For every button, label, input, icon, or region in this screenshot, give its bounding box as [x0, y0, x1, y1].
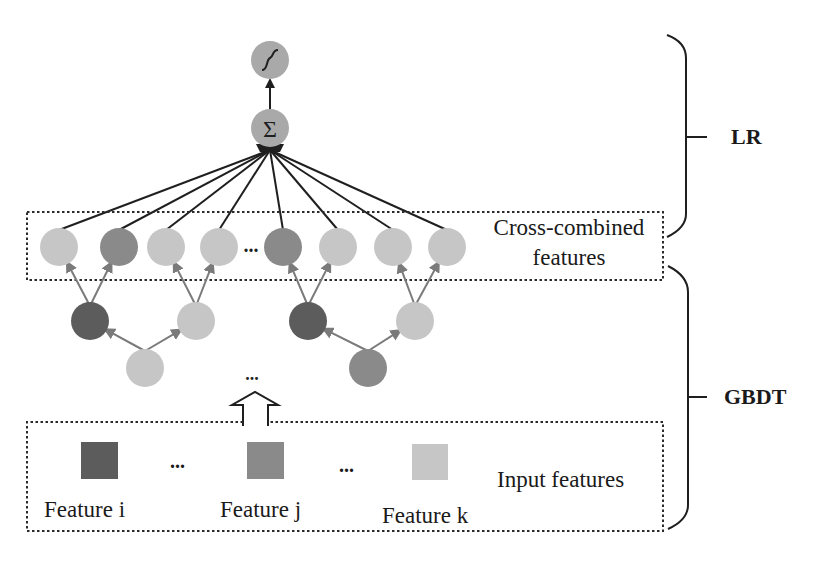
cross-combined-node	[264, 228, 302, 266]
input-ellipsis-2: ...	[339, 454, 354, 477]
tree-edges	[67, 262, 439, 351]
tree-root-node	[349, 349, 387, 387]
feature-i-label: Feature i	[44, 497, 125, 523]
lr-label: LR	[731, 124, 762, 150]
tree-edge-arrow	[368, 330, 401, 351]
lr-weight-line	[59, 150, 270, 230]
tree-edge-arrow	[323, 329, 368, 351]
gbdt-label: GBDT	[724, 384, 786, 410]
sigmoid-node	[251, 41, 289, 79]
tree-root-node	[126, 349, 164, 387]
tree-edge-arrow	[105, 329, 145, 351]
input-features-label: Input features	[497, 467, 624, 493]
feature-k-square	[412, 444, 448, 480]
cross-combined-node	[319, 228, 357, 266]
tree-split-node	[289, 302, 327, 340]
tree-edge-arrow	[415, 262, 439, 306]
input-ellipsis-1: ...	[170, 450, 185, 473]
feature-k-label: Feature k	[382, 503, 468, 529]
tree-edge-arrow	[399, 263, 415, 306]
cross-combined-ellipsis: ...	[244, 234, 259, 256]
feature-squares	[81, 442, 448, 480]
cross-combined-node	[40, 228, 78, 266]
cross-combined-node	[147, 228, 185, 266]
cross-combined-node	[374, 228, 412, 266]
trees-ellipsis: ...	[245, 364, 259, 384]
feature-j-label: Feature j	[220, 497, 301, 523]
sum-icon: Σ	[263, 116, 277, 142]
lr-weight-line	[166, 150, 270, 230]
tree-split-node	[177, 302, 215, 340]
feature-i-square	[81, 442, 118, 479]
cross-combined-node	[428, 228, 466, 266]
sum-node: Σ	[251, 109, 289, 147]
tree-edge-arrow	[196, 263, 213, 306]
cross-combined-node	[100, 228, 138, 266]
input-to-trees-arrow	[232, 392, 278, 426]
lr-weight-line	[219, 150, 270, 230]
feature-j-square	[247, 442, 284, 479]
lr-weight-lines	[59, 150, 447, 230]
gbdt-brace	[668, 266, 707, 529]
tree-edge-arrow	[90, 262, 112, 306]
tree-edge-arrow	[145, 330, 181, 351]
tree-edge-arrow	[290, 263, 308, 306]
lr-weight-line	[270, 150, 393, 230]
cross-combined-label-line2: features	[476, 243, 662, 273]
cross-combined-label-line1: Cross-combined	[476, 213, 662, 243]
cross-combined-label: Cross-combined features	[476, 213, 662, 273]
lr-weight-line	[270, 150, 447, 230]
tree-edge-arrow	[308, 262, 330, 306]
lr-brace	[667, 35, 707, 237]
tree-edge-arrow	[67, 262, 90, 306]
tree-edge-arrow	[174, 262, 196, 306]
tree-split-node	[396, 302, 434, 340]
lr-weight-line	[119, 150, 270, 230]
cross-combined-node	[200, 228, 238, 266]
tree-split-node	[71, 302, 109, 340]
gbdt-lr-diagram: Σ ... ...	[0, 0, 827, 569]
